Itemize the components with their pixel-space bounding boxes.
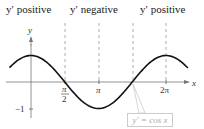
cosine-plot: π 2 π 2π −1 x y <box>0 0 204 129</box>
callout-pointer <box>133 84 145 113</box>
tick-neg1: −1 <box>15 104 25 114</box>
y-axis-label: y <box>27 25 32 35</box>
dashed-dividers <box>31 23 166 82</box>
tick-2pi: 2π <box>160 85 170 95</box>
tick-pi-half-den: 2 <box>62 94 67 104</box>
curve-label: y′ = cos x <box>127 113 173 127</box>
x-axis-arrow-icon <box>184 80 190 84</box>
y-axis-arrow-icon <box>29 36 33 42</box>
tick-pi-half-num: π <box>62 84 67 94</box>
tick-pi: π <box>96 85 101 95</box>
x-axis-label: x <box>191 78 196 88</box>
